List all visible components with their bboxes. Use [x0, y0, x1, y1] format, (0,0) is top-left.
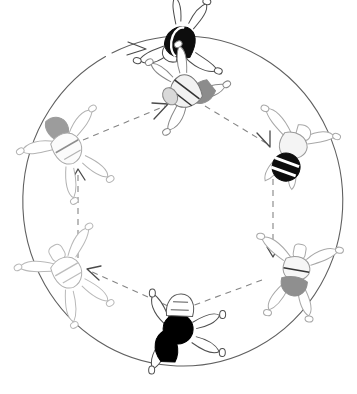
diagram-canvas	[0, 0, 357, 394]
pose-6-upper-left	[0, 0, 357, 394]
